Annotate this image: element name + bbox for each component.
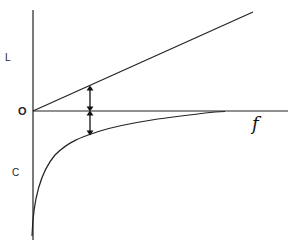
inductive-line — [33, 12, 253, 111]
label-origin: O — [18, 105, 27, 117]
label-f: f — [250, 113, 262, 134]
reactance-diagram: L O C f — [0, 0, 294, 246]
label-l: L — [5, 52, 11, 63]
capacitive-curve — [32, 112, 225, 237]
label-c: C — [12, 167, 19, 178]
